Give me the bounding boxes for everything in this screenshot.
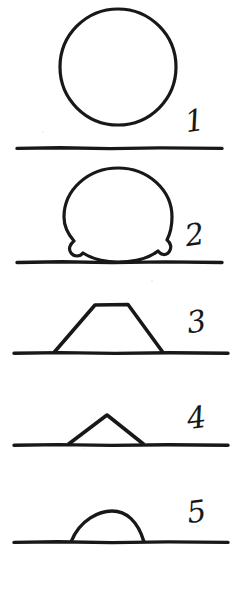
- sun-triangle: [68, 415, 144, 445]
- horizon-line-4: [14, 445, 228, 446]
- horizon-line-5: [14, 542, 228, 543]
- sun-trapezoid: [54, 305, 163, 353]
- figure-number-1: 1: [183, 102, 207, 139]
- sun-circle-full: [60, 9, 176, 125]
- horizon-line-2: [17, 262, 222, 263]
- figure-number-2: 2: [182, 216, 207, 253]
- figure-number-3: 3: [185, 303, 209, 340]
- horizon-line-1: [17, 148, 222, 149]
- figure-plate: 1 2 3 4 5 崎真左眼中，红海太阳的: [0, 0, 241, 598]
- sun-shapes-diagram: 1 2 3 4 5: [0, 0, 241, 598]
- caption-strip: 崎真左眼中，红海太阳的: [0, 568, 241, 598]
- sun-flat-dome: [71, 511, 144, 542]
- figure-number-4: 4: [184, 399, 209, 436]
- figure-number-labels: 1 2 3 4 5: [182, 102, 209, 530]
- sun-circle-lumpy: [64, 168, 172, 262]
- figure-number-5: 5: [185, 493, 209, 530]
- horizon-line-3: [14, 353, 228, 354]
